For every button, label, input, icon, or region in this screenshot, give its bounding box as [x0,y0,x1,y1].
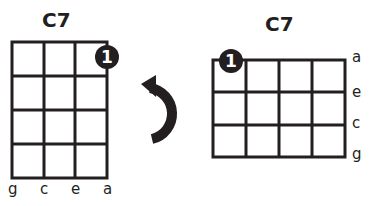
right-string-label-e: e [352,85,361,100]
left-string-label-c: c [40,182,48,197]
left-string-label-a: a [103,182,112,197]
rotate-counterclockwise-arrow-icon [141,75,172,139]
left-string-label-e: e [71,182,80,197]
right-string-label-g: g [352,147,362,162]
chord-diagrams: 1 1 [0,0,370,206]
right-finger-dot: 1 [219,49,243,73]
left-finger-dot: 1 [95,45,119,69]
right-string-label-c: c [352,116,360,131]
right-fretboard-grid [213,60,345,157]
svg-text:1: 1 [101,47,113,67]
left-string-label-g: g [8,182,18,197]
right-string-label-a: a [352,50,361,65]
svg-text:1: 1 [225,51,237,71]
left-fretboard-grid [12,42,107,178]
